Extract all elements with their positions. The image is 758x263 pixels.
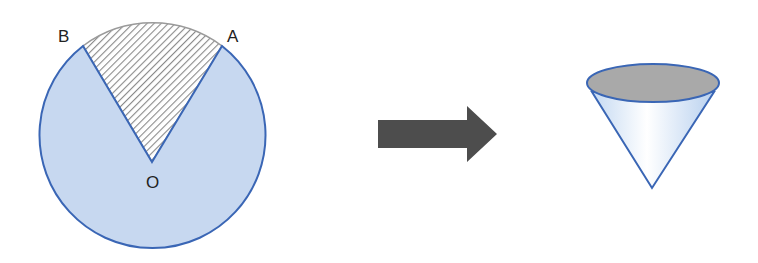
- cone-figure: [587, 64, 719, 188]
- circle-figure: B A O: [39, 23, 265, 248]
- cone-top: [587, 64, 719, 102]
- label-a: A: [227, 27, 239, 46]
- diagram-canvas: B A O: [0, 0, 758, 263]
- label-b: B: [58, 27, 69, 46]
- label-o: O: [146, 173, 159, 192]
- transform-arrow-icon: [378, 106, 497, 162]
- cone-body: [592, 92, 714, 188]
